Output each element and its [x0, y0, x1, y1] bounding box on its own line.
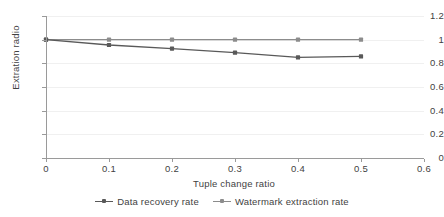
- y-tick-label-4: 0.8: [406, 58, 444, 68]
- y-tick-label-3: 0.6: [406, 82, 444, 92]
- x-tick-label-6: 0.6: [404, 163, 444, 174]
- series-0-marker-1: [107, 43, 111, 47]
- data-series-group: [46, 16, 424, 158]
- legend-marker-icon-1: [213, 198, 231, 205]
- series-1-marker-5: [359, 38, 363, 42]
- series-0-marker-2: [170, 46, 174, 50]
- legend-marker-icon-0: [95, 198, 113, 205]
- legend-item-0[interactable]: Data recovery rate: [95, 196, 199, 207]
- x-tick-label-0: 0: [26, 163, 66, 174]
- y-tick-mark-2: [42, 111, 46, 112]
- y-tick-mark-4: [42, 63, 46, 64]
- series-1-marker-3: [233, 38, 237, 42]
- y-tick-label-5: 1: [406, 35, 444, 45]
- x-tick-mark-5: [361, 159, 362, 162]
- x-tick-label-2: 0.2: [152, 163, 192, 174]
- x-tick-mark-1: [109, 159, 110, 162]
- legend-label-1: Watermark extraction rate: [235, 196, 349, 207]
- x-tick-label-3: 0.3: [215, 163, 255, 174]
- x-tick-mark-6: [424, 159, 425, 162]
- chart-legend: Data recovery rateWatermark extraction r…: [0, 196, 444, 207]
- y-tick-label-6: 1.2: [406, 11, 444, 21]
- legend-label-0: Data recovery rate: [117, 196, 199, 207]
- x-tick-mark-4: [298, 159, 299, 162]
- series-1-marker-1: [107, 38, 111, 42]
- y-tick-mark-3: [42, 87, 46, 88]
- x-tick-label-5: 0.5: [341, 163, 381, 174]
- y-tick-mark-1: [42, 134, 46, 135]
- legend-item-1[interactable]: Watermark extraction rate: [213, 196, 349, 207]
- series-0-marker-4: [296, 55, 300, 59]
- series-1-marker-4: [296, 38, 300, 42]
- x-tick-mark-3: [235, 159, 236, 162]
- x-tick-label-4: 0.4: [278, 163, 318, 174]
- line-chart: 00.20.40.60.811.2 00.10.20.30.40.50.6 Ex…: [0, 0, 444, 217]
- y-tick-label-2: 0.4: [406, 106, 444, 116]
- x-tick-mark-0: [46, 159, 47, 162]
- series-line-0: [46, 40, 361, 58]
- y-axis-title: Extration radio: [10, 13, 21, 103]
- series-0-marker-3: [233, 51, 237, 55]
- plot-area: [46, 16, 424, 158]
- series-0-marker-5: [359, 54, 363, 58]
- y-tick-label-1: 0.2: [406, 129, 444, 139]
- x-axis-title: Tuple change ratio: [0, 178, 444, 189]
- x-tick-mark-2: [172, 159, 173, 162]
- x-tick-label-1: 0.1: [89, 163, 129, 174]
- y-axis-line: [46, 16, 47, 159]
- series-1-marker-2: [170, 38, 174, 42]
- y-tick-mark-5: [42, 40, 46, 41]
- y-tick-mark-6: [42, 16, 46, 17]
- y-tick-label-0: 0: [406, 153, 444, 163]
